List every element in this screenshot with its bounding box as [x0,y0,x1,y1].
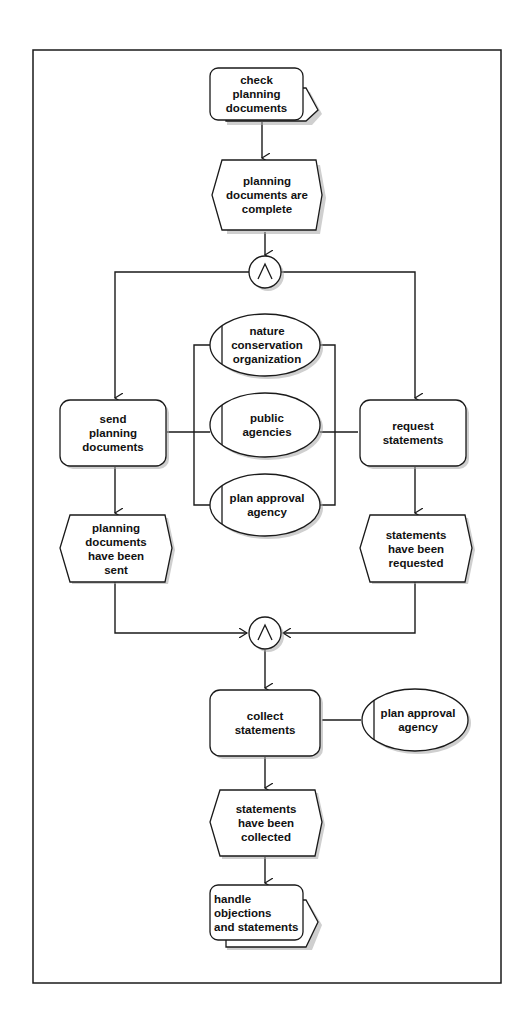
event-planning-documents-sent[interactable] [60,515,172,582]
function-collect-statements[interactable] [210,690,320,756]
node-check-planning-documents[interactable] [210,68,318,121]
event-planning-documents-complete[interactable] [212,160,322,230]
function-send-planning-documents[interactable] [60,400,166,466]
epc-diagram [0,0,527,1023]
org-nature-conservation-organization[interactable] [210,314,320,376]
event-statements-requested[interactable] [360,515,472,582]
and-join-connector[interactable] [249,617,281,649]
function-request-statements[interactable] [360,400,466,466]
org-plan-approval-agency-2[interactable] [362,689,468,751]
node-handle-objections[interactable] [210,885,318,947]
event-statements-collected[interactable] [210,790,322,856]
and-split-connector[interactable] [249,256,281,288]
org-plan-approval-agency[interactable] [210,474,320,536]
org-public-agencies[interactable] [210,393,320,457]
